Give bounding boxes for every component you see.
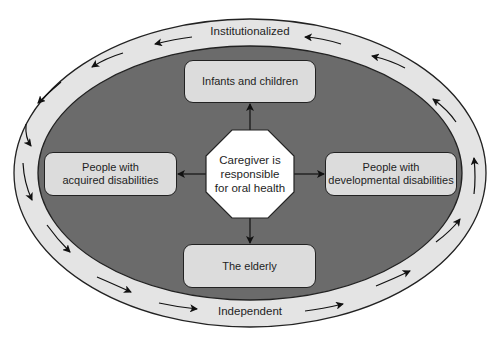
box-developmental-disabilities: People with developmental disabilities <box>325 152 457 196</box>
box-infants-children: Infants and children <box>184 60 316 103</box>
caregiver-line2: responsible <box>221 167 280 181</box>
box-developmental-line2: developmental disabilities <box>328 174 453 187</box>
box-acquired-line2: acquired disabilities <box>63 174 159 187</box>
label-independent: Independent <box>190 305 310 317</box>
caregiver-line3: for oral health <box>215 181 285 195</box>
box-developmental-line1: People with <box>363 161 420 174</box>
box-elderly-text: The elderly <box>222 260 276 273</box>
label-institutionalized: Institutionalized <box>190 25 310 37</box>
caregiver-text: Caregiver is responsible for oral health <box>206 130 294 218</box>
box-infants-children-text: Infants and children <box>202 75 298 88</box>
box-acquired-disabilities: People with acquired disabilities <box>44 152 177 196</box>
box-acquired-line1: People with <box>82 161 139 174</box>
caregiver-line1: Caregiver is <box>219 153 280 167</box>
box-elderly: The elderly <box>183 244 316 288</box>
